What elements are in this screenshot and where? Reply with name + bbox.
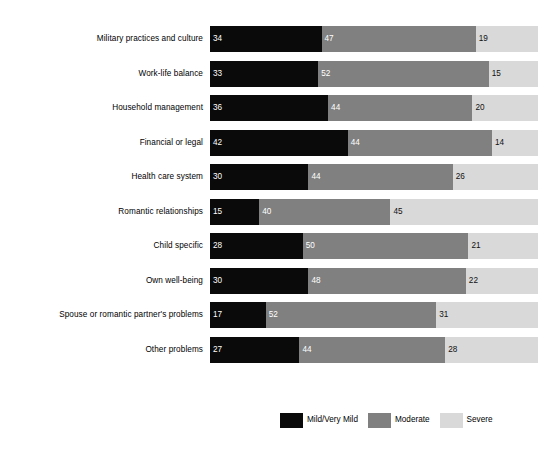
bar-row: Financial or legal424414 [0, 130, 557, 156]
bar-track: 304426 [210, 164, 538, 190]
bar-segment-moderate: 52 [266, 302, 437, 328]
segment-value-label: 28 [448, 345, 457, 353]
segment-value-label: 36 [213, 104, 222, 112]
bar-row: Romantic relationships154045 [0, 199, 557, 225]
bar-track: 364420 [210, 95, 538, 121]
category-label: Romantic relationships [0, 199, 203, 225]
bar-row: Own well-being304822 [0, 268, 557, 294]
segment-value-label: 34 [213, 35, 222, 43]
bar-segment-mild-very-mild: 36 [210, 95, 328, 121]
segment-value-label: 15 [492, 69, 501, 77]
bar-segment-severe: 28 [445, 337, 538, 363]
segment-value-label: 30 [213, 276, 222, 284]
segment-value-label: 44 [302, 345, 311, 353]
segment-value-label: 45 [393, 207, 402, 215]
category-label: Work-life balance [0, 61, 203, 87]
bar-segment-moderate: 47 [322, 26, 476, 52]
bar-segment-moderate: 44 [308, 164, 452, 190]
bar-segment-severe: 26 [453, 164, 538, 190]
bar-track: 274428 [210, 337, 538, 363]
bar-row: Child specific285021 [0, 233, 557, 259]
bar-segment-mild-very-mild: 30 [210, 164, 308, 190]
legend-label: Mild/Very Mild [307, 416, 358, 424]
legend-item: Moderate [368, 413, 430, 428]
category-label: Spouse or romantic partner's problems [0, 302, 203, 328]
bar-row: Health care system304426 [0, 164, 557, 190]
bar-segment-moderate: 44 [328, 95, 472, 121]
segment-value-label: 44 [311, 173, 320, 181]
bar-track: 285021 [210, 233, 538, 259]
segment-value-label: 52 [321, 69, 330, 77]
bar-segment-moderate: 40 [259, 199, 390, 225]
segment-value-label: 28 [213, 242, 222, 250]
bar-row: Work-life balance335215 [0, 61, 557, 87]
bar-segment-moderate: 44 [299, 337, 445, 363]
bar-segment-mild-very-mild: 34 [210, 26, 322, 52]
bar-segment-mild-very-mild: 17 [210, 302, 266, 328]
bar-segment-severe: 31 [436, 302, 538, 328]
segment-value-label: 44 [351, 138, 360, 146]
bar-segment-severe: 22 [466, 268, 538, 294]
bar-segment-mild-very-mild: 15 [210, 199, 259, 225]
bar-segment-mild-very-mild: 33 [210, 61, 318, 87]
bar-row: Other problems274428 [0, 337, 557, 363]
segment-value-label: 26 [456, 173, 465, 181]
segment-value-label: 44 [331, 104, 340, 112]
bar-segment-mild-very-mild: 27 [210, 337, 299, 363]
bar-row: Military practices and culture344719 [0, 26, 557, 52]
chart-legend: Mild/Very MildModerateSevere [280, 412, 503, 428]
segment-value-label: 22 [469, 276, 478, 284]
category-label: Financial or legal [0, 130, 203, 156]
segment-value-label: 47 [325, 35, 334, 43]
bar-track: 335215 [210, 61, 538, 87]
category-label: Own well-being [0, 268, 203, 294]
segment-value-label: 14 [495, 138, 504, 146]
bar-segment-mild-very-mild: 30 [210, 268, 308, 294]
legend-item: Severe [440, 413, 493, 428]
legend-swatch-icon [368, 413, 391, 428]
bar-track: 175231 [210, 302, 538, 328]
stacked-bar-chart: Military practices and culture344719Work… [0, 0, 557, 459]
bar-track: 344719 [210, 26, 538, 52]
segment-value-label: 20 [475, 104, 484, 112]
bar-segment-moderate: 44 [348, 130, 492, 156]
segment-value-label: 40 [262, 207, 271, 215]
bar-segment-moderate: 50 [303, 233, 469, 259]
category-label: Other problems [0, 337, 203, 363]
bar-track: 304822 [210, 268, 538, 294]
bar-track: 424414 [210, 130, 538, 156]
category-label: Military practices and culture [0, 26, 203, 52]
segment-value-label: 21 [471, 242, 480, 250]
category-label: Child specific [0, 233, 203, 259]
segment-value-label: 15 [213, 207, 222, 215]
segment-value-label: 33 [213, 69, 222, 77]
bar-row: Household management364420 [0, 95, 557, 121]
bar-segment-severe: 19 [476, 26, 538, 52]
bar-segment-mild-very-mild: 28 [210, 233, 303, 259]
segment-value-label: 42 [213, 138, 222, 146]
segment-value-label: 50 [306, 242, 315, 250]
bar-track: 154045 [210, 199, 538, 225]
legend-label: Severe [467, 416, 493, 424]
legend-label: Moderate [395, 416, 430, 424]
legend-item: Mild/Very Mild [280, 413, 358, 428]
bar-segment-moderate: 52 [318, 61, 489, 87]
segment-value-label: 31 [439, 311, 448, 319]
legend-swatch-icon [440, 413, 463, 428]
segment-value-label: 19 [479, 35, 488, 43]
segment-value-label: 48 [311, 276, 320, 284]
bar-segment-severe: 21 [468, 233, 538, 259]
bar-segment-severe: 15 [489, 61, 538, 87]
segment-value-label: 27 [213, 345, 222, 353]
bar-segment-severe: 20 [472, 95, 538, 121]
category-label: Household management [0, 95, 203, 121]
bar-segment-severe: 14 [492, 130, 538, 156]
bar-segment-mild-very-mild: 42 [210, 130, 348, 156]
bar-row: Spouse or romantic partner's problems175… [0, 302, 557, 328]
segment-value-label: 17 [213, 311, 222, 319]
legend-swatch-icon [280, 413, 303, 428]
bar-segment-severe: 45 [390, 199, 538, 225]
plot-area: Military practices and culture344719Work… [0, 0, 557, 400]
bar-segment-moderate: 48 [308, 268, 465, 294]
segment-value-label: 52 [269, 311, 278, 319]
